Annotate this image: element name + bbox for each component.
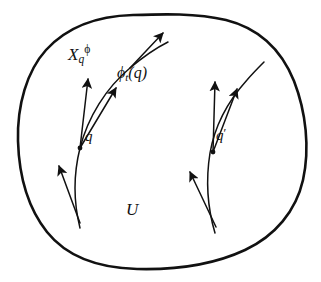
flow-diagram: Xqϕ ϕt(q) q q′ U — [0, 0, 321, 282]
tangent-arrow-at-phi-t-q — [130, 33, 163, 68]
label-phi-argument: (q) — [128, 64, 147, 81]
tangent-arrow-lower-right — [190, 172, 216, 227]
point-marker-q — [78, 146, 83, 151]
point-marker-q-prime — [211, 150, 216, 155]
label-point-q: q — [85, 129, 93, 144]
label-X-superscript: ϕ — [84, 43, 90, 56]
integral-curve-right — [208, 62, 264, 233]
label-point-q-prime: q′ — [216, 127, 226, 143]
label-q-prime-base: q — [216, 127, 224, 143]
label-vector-field-X-q-phi: Xqϕ — [68, 46, 90, 63]
tangent-arrow-vertical-at-q-prime — [213, 82, 215, 152]
label-flow-phi-t-of-q: ϕt(q) — [117, 65, 147, 81]
diagram-canvas — [0, 0, 321, 282]
open-set-U-boundary — [18, 14, 307, 269]
label-region-U: U — [126, 201, 138, 218]
point-markers — [78, 146, 216, 155]
label-q-prime-mark: ′ — [224, 126, 227, 140]
tangent-arrow-lower-left — [59, 166, 80, 223]
label-X-base: X — [68, 45, 78, 64]
